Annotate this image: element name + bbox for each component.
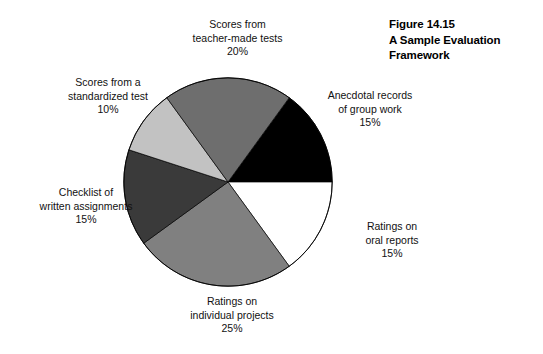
slice-label-line-2: teacher-made tests: [160, 32, 315, 46]
slice-label-percent: 10%: [38, 103, 178, 117]
slice-label-individual-projects: Ratings on individual projects 25%: [157, 295, 307, 336]
slice-label-line-2: individual projects: [157, 309, 307, 323]
slice-label-anecdotal-records: Anecdotal records of group work 15%: [305, 89, 435, 130]
slice-label-line-1: Ratings on: [332, 220, 452, 234]
figure-caption: Figure 14.15 A Sample Evaluation Framewo…: [389, 17, 539, 64]
slice-label-line-2: standardized test: [38, 90, 178, 104]
slice-label-percent: 15%: [305, 116, 435, 130]
slice-label-standardized-test: Scores from a standardized test 10%: [38, 76, 178, 117]
figure-container: Figure 14.15 A Sample Evaluation Framewo…: [0, 0, 543, 354]
slice-label-line-1: Checklist of: [16, 186, 156, 200]
slice-label-oral-reports: Ratings on oral reports 15%: [332, 220, 452, 261]
slice-label-line-1: Scores from: [160, 18, 315, 32]
slice-label-teacher-made-tests: Scores from teacher-made tests 20%: [160, 18, 315, 59]
figure-caption-line-2: A Sample Evaluation: [389, 33, 539, 49]
slice-label-percent: 25%: [157, 322, 307, 336]
slice-label-percent: 20%: [160, 45, 315, 59]
slice-label-percent: 15%: [332, 247, 452, 261]
figure-caption-line-1: Figure 14.15: [389, 17, 539, 33]
slice-label-line-2: oral reports: [332, 234, 452, 248]
figure-caption-line-3: Framework: [389, 48, 539, 64]
slice-label-written-assignments: Checklist of written assignments 15%: [16, 186, 156, 227]
slice-label-line-2: written assignments: [16, 200, 156, 214]
slice-label-percent: 15%: [16, 213, 156, 227]
slice-label-line-1: Ratings on: [157, 295, 307, 309]
slice-label-line-2: of group work: [305, 103, 435, 117]
slice-label-line-1: Anecdotal records: [305, 89, 435, 103]
slice-label-line-1: Scores from a: [38, 76, 178, 90]
